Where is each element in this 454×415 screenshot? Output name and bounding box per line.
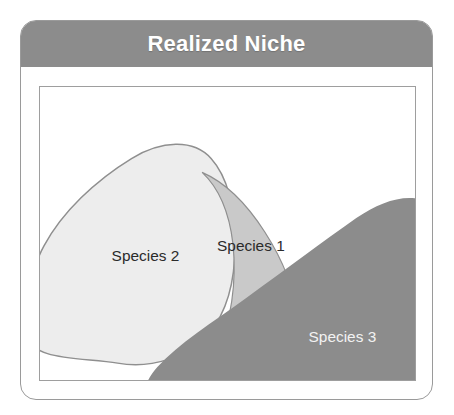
species-2-label: Species 2 (112, 247, 180, 264)
niche-blobs-svg: Species 2 Species 1 Species 3 (40, 87, 415, 380)
card-header-bar: Realized Niche (21, 21, 432, 67)
niche-diagram-screenshot: Realized Niche Species 2 Species 1 Speci… (0, 0, 454, 415)
species-3-label: Species 3 (309, 328, 377, 345)
niche-plot-area: Species 2 Species 1 Species 3 (39, 86, 416, 381)
page-title: Realized Niche (147, 31, 305, 57)
realized-niche-card: Realized Niche Species 2 Species 1 Speci… (20, 20, 433, 400)
species-1-label: Species 1 (217, 237, 285, 254)
